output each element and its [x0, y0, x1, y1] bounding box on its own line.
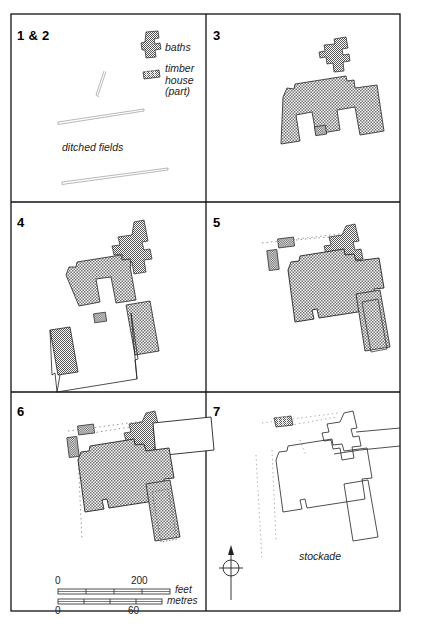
scale-bar-feet: [58, 589, 170, 594]
villa-main-range-p4: [66, 255, 136, 306]
detached-outbuilding-p3: [314, 125, 326, 135]
villa-courtyard-block-p3: [281, 76, 384, 144]
outbuilding-a-p5: [278, 237, 295, 248]
ditched-field-line-lower: [62, 168, 168, 185]
panel-4-content: [50, 220, 159, 392]
north-arrow-icon: [219, 545, 243, 600]
scale-feet-min-label: 0: [55, 575, 61, 587]
south-wing-p6: [146, 480, 180, 542]
panel-1-2-content: [58, 31, 168, 185]
baths-building-p3: [319, 37, 350, 72]
villa-phase-diagram: 1 & 2 3 4 5 6 7 baths timber house (part…: [0, 0, 421, 632]
panel-number-6: 6: [17, 404, 25, 419]
ditch-segment-short: [96, 71, 106, 97]
panel-3-content: [281, 37, 384, 144]
panel-number-7: 7: [213, 404, 221, 419]
villa-east-wing-p4: [126, 301, 159, 355]
timber-house-p7: [274, 416, 293, 427]
scale-metres-min-label: 0: [55, 605, 61, 617]
panel-number-3: 3: [213, 28, 221, 43]
scale-bar-metres: [58, 599, 162, 604]
legend-timber-house-label: timber house (part): [165, 63, 194, 98]
legend-baths-label: baths: [165, 42, 191, 54]
outbuilding-b-p5: [267, 249, 279, 270]
ditched-field-line-upper: [58, 109, 144, 125]
panel-number-1-2: 1 & 2: [17, 28, 50, 43]
legend-timber-house-icon: [143, 70, 160, 79]
scale-feet-unit-label: feet: [175, 584, 192, 596]
detached-outbuilding-p4: [94, 312, 107, 323]
villa-west-wing-p4: [50, 327, 78, 375]
panel-7-content: [219, 411, 400, 600]
outbuilding-a-p6: [78, 424, 95, 435]
panel-number-5: 5: [213, 215, 221, 230]
ditched-fields-label: ditched fields: [62, 142, 123, 154]
south-wing-p5: [356, 290, 390, 352]
outbuilding-b-p6: [67, 436, 79, 457]
panel-5-content: [262, 224, 390, 352]
stockade-label: stockade: [299, 551, 341, 563]
scale-metres-unit-label: metres: [167, 595, 198, 607]
stockade-dotted-p7: [256, 413, 338, 560]
legend-baths-icon: [141, 31, 161, 58]
panel-6-content: [67, 411, 214, 542]
villa-outline-p7: [276, 439, 378, 541]
panel-number-4: 4: [17, 215, 25, 230]
diagram-canvas: [0, 0, 421, 632]
scale-metres-max-label: 60: [128, 605, 139, 617]
boundary-dotted-p5: [262, 234, 340, 243]
scale-feet-max-label: 200: [131, 575, 148, 587]
